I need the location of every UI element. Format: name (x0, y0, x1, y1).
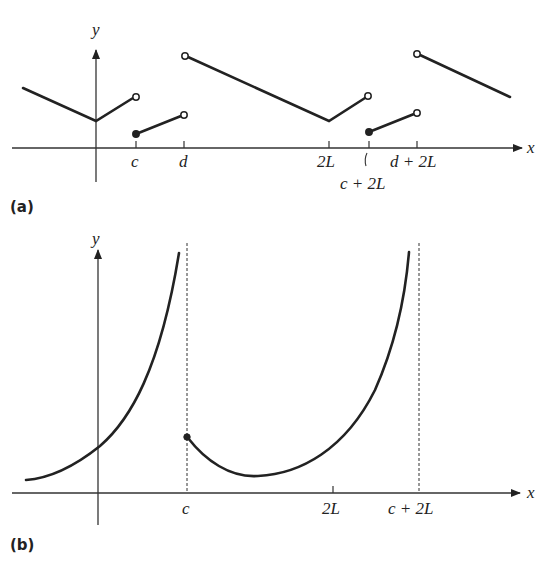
open-circle (133, 94, 139, 100)
open-circle (414, 110, 420, 116)
right-branch (188, 252, 409, 476)
tick-label-c-plus-2l: c + 2L (340, 174, 385, 193)
open-circle (414, 51, 420, 57)
x-axis-label: x (526, 483, 535, 502)
panel-a: y x c d 2L d + 2L c + 2L (10, 20, 535, 216)
panel-label-b: (b) (10, 536, 34, 554)
open-circle (182, 53, 188, 59)
open-circle (365, 93, 371, 99)
left-branch (26, 253, 179, 480)
y-axis-label: y (90, 229, 100, 248)
tick-label-2l: 2L (317, 152, 335, 171)
tick-label-d: d (179, 152, 188, 171)
pointer-c-plus-2l (365, 153, 367, 166)
endpoint-markers-a (133, 51, 420, 137)
x-axis-label: x (526, 138, 535, 157)
tick-label-2l: 2L (322, 499, 340, 518)
tick-label-c: c (182, 499, 190, 518)
panel-b: y x c 2L c + 2L (b) (10, 229, 535, 554)
figure: y x c d 2L d + 2L c + 2L (0, 0, 551, 563)
y-axis-label: y (90, 20, 100, 39)
function-graph-b (26, 252, 409, 480)
tick-label-d-plus-2l: d + 2L (390, 152, 436, 171)
filled-dot (184, 434, 190, 440)
tick-label-c-plus-2l: c + 2L (388, 499, 433, 518)
filled-dot (366, 129, 372, 135)
tick-label-c: c (131, 152, 139, 171)
x-ticks (136, 141, 417, 148)
filled-dot (133, 131, 139, 137)
open-circle (181, 112, 187, 118)
panel-label-a: (a) (10, 198, 34, 216)
